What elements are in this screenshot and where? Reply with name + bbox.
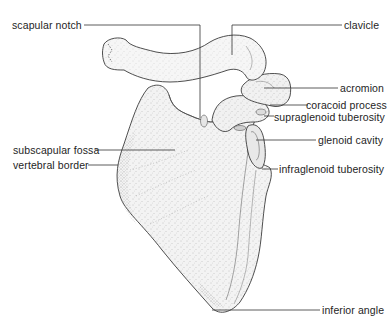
scapular-notch (201, 115, 208, 127)
label-infraglenoid-tuberosity: infraglenoid tuberosity (279, 163, 384, 175)
label-supraglenoid-tuberosity: supraglenoid tuberosity (274, 111, 385, 123)
label-vertebral-border: vertebral border (13, 159, 89, 171)
label-inferior-angle: inferior angle (322, 304, 384, 316)
label-subscapular-fossa: subscapular fossa (13, 144, 99, 156)
label-acromion: acromion (340, 82, 384, 94)
label-coracoid-process: coracoid process (306, 99, 387, 111)
label-clavicle: clavicle (344, 19, 379, 31)
anatomy-diagram: scapular notch clavicle acromion coracoi… (0, 0, 392, 323)
label-glenoid-cavity: glenoid cavity (318, 134, 383, 146)
clavicle (103, 35, 267, 82)
label-scapular-notch: scapular notch (12, 19, 82, 31)
